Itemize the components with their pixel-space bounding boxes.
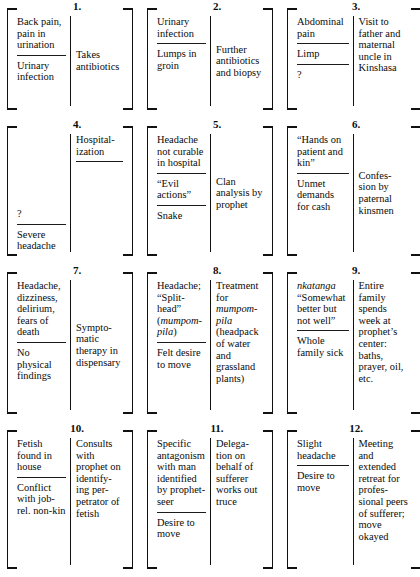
complaint-entry: Severe headache xyxy=(17,224,66,252)
complaint-column: Abdominal painLimp? xyxy=(297,16,353,106)
complaint-entry: Whole family sick xyxy=(297,330,349,358)
bracket-right-icon xyxy=(123,272,133,414)
action-entry xyxy=(76,161,123,172)
complaint-entry: Conflict with job-rel. non-kin xyxy=(17,477,66,517)
bracket-cell-2: 2.Urinary infectionLumps in groinFurther… xyxy=(140,0,280,118)
action-column: Further antibiotics and biopsy xyxy=(210,16,263,106)
bracket-left-icon xyxy=(7,430,17,569)
complaint-entry: Lumps in groin xyxy=(157,43,206,71)
complaint-entry: Snake xyxy=(157,205,206,222)
bracket-left-icon xyxy=(287,430,297,569)
cell-body: Headache not curable in hospital“Evil ac… xyxy=(157,134,263,252)
complaint-column: Fetish found in houseConflict with job-r… xyxy=(17,438,70,565)
complaint-entry: Slight headache xyxy=(297,438,349,461)
cell-body: Back pain, pain in urinationUrinary infe… xyxy=(17,16,123,106)
action-column: Entire family spends week at prophet’s c… xyxy=(353,280,409,410)
bracket-cell-7: 7.Headache, dizziness, delirium, fears o… xyxy=(0,264,140,422)
action-column: Treatment for mumpom-pila (headpack of w… xyxy=(210,280,263,410)
cell-number: 4. xyxy=(0,119,140,130)
complaint-entry: Headache; “Split-head” (mumpom-pila) xyxy=(157,280,206,338)
action-entry: Sympto-matic therapy in dispensary xyxy=(76,322,123,368)
action-entry: Entire family spends week at prophet’s c… xyxy=(359,280,409,384)
cell-body: Urinary infectionLumps in groinFurther a… xyxy=(157,16,263,106)
cell-number: 8. xyxy=(140,265,280,276)
complaint-column: Specific antagonism with man identified … xyxy=(157,438,210,565)
action-column: Consults with prophet on identify-ing pe… xyxy=(70,438,123,565)
complaint-entry: Specific antagonism with man identified … xyxy=(157,438,206,508)
bracket-row-1: 1.Back pain, pain in urinationUrinary in… xyxy=(0,0,416,118)
complaint-entry: No physical findings xyxy=(17,342,66,382)
complaint-entry: Desire to move xyxy=(157,512,206,540)
action-entry: Meeting and extended retreat for profes-… xyxy=(359,438,409,542)
bracket-left-icon xyxy=(7,126,17,256)
complaint-entry: ? xyxy=(17,208,66,220)
complaint-entry: Urinary infection xyxy=(157,16,206,39)
cell-body: Headache; “Split-head” (mumpom-pila)Felt… xyxy=(157,280,263,410)
bracket-cell-6: 6.“Hands on patient and kin”Unmet demand… xyxy=(280,118,416,264)
bracket-cell-12: 12.Slight headacheDesire to moveMeeting … xyxy=(280,422,416,577)
action-column: Confes-sion by paternal kinsmen xyxy=(353,134,409,252)
cell-number: 6. xyxy=(280,119,416,130)
bracket-right-icon xyxy=(123,126,133,256)
bracket-right-icon xyxy=(410,126,420,256)
complaint-entry: ? xyxy=(297,64,349,81)
complaint-entry: Urinary infection xyxy=(17,55,66,83)
cell-body: “Hands on patient and kin”Unmet demands … xyxy=(297,134,408,252)
complaint-column: Slight headacheDesire to move xyxy=(297,438,353,565)
bracket-left-icon xyxy=(147,272,157,414)
cell-number: 12. xyxy=(280,423,416,434)
action-column: Delega-tion on behalf of sufferer works … xyxy=(210,438,263,565)
action-entry: Hospital-ization xyxy=(76,134,123,157)
complaint-column: ?Severe headache xyxy=(17,134,70,252)
bracket-right-icon xyxy=(410,8,420,110)
bracket-cell-9: 9.nkatanga “Somewhat better but not well… xyxy=(280,264,416,422)
action-entry: Further antibiotics and biopsy xyxy=(216,44,263,79)
italic-term: mumpom-pila xyxy=(216,303,258,326)
cell-number: 1. xyxy=(0,1,140,12)
bracket-left-icon xyxy=(147,8,157,110)
action-entry: Confes-sion by paternal kinsmen xyxy=(359,170,409,216)
bracket-left-icon xyxy=(147,126,157,256)
complaint-entry: Limp xyxy=(297,43,349,60)
action-entry: Consults with prophet on identify-ing pe… xyxy=(76,438,123,519)
bracket-right-icon xyxy=(263,126,273,256)
complaint-entry: “Hands on patient and kin” xyxy=(297,134,349,169)
bracket-cell-11: 11.Specific antagonism with man identifi… xyxy=(140,422,280,577)
cell-body: Fetish found in houseConflict with job-r… xyxy=(17,438,123,565)
complaint-entry: nkatanga “Somewhat better but not well” xyxy=(297,280,349,326)
cell-number: 11. xyxy=(140,423,280,434)
bracket-right-icon xyxy=(263,430,273,569)
action-column: Takes antibiotics xyxy=(70,16,123,106)
action-entry: Delega-tion on behalf of sufferer works … xyxy=(216,438,263,508)
complaint-entry: Back pain, pain in urination xyxy=(17,16,66,51)
action-column: Hospital-ization xyxy=(70,134,123,252)
bracket-cell-10: 10.Fetish found in houseConflict with jo… xyxy=(0,422,140,577)
cell-body: Slight headacheDesire to moveMeeting and… xyxy=(297,438,408,565)
bracket-row-4: 10.Fetish found in houseConflict with jo… xyxy=(0,422,416,577)
cell-body: Headache, dizziness, delirium, fears of … xyxy=(17,280,123,410)
action-entry: Takes antibiotics xyxy=(76,49,123,72)
cell-body: ?Severe headacheHospital-ization xyxy=(17,134,123,252)
action-entry: Visit to father and maternal uncle in Ki… xyxy=(359,16,409,74)
complaint-entry: Felt desire to move xyxy=(157,342,206,370)
bracket-right-icon xyxy=(123,8,133,110)
complaint-entry: Headache, dizziness, delirium, fears of … xyxy=(17,280,66,338)
cell-number: 3. xyxy=(280,1,416,12)
complaint-entry: Headache not curable in hospital xyxy=(157,134,206,169)
italic-term: mumpom-pila xyxy=(157,315,202,338)
cell-body: Specific antagonism with man identified … xyxy=(157,438,263,565)
italic-term: nkatanga xyxy=(297,280,336,291)
complaint-entry: Desire to move xyxy=(297,465,349,493)
complaint-column: Urinary infectionLumps in groin xyxy=(157,16,210,106)
cell-body: Abdominal painLimp?Visit to father and m… xyxy=(297,16,408,106)
bracket-right-icon xyxy=(263,272,273,414)
complaint-entry: Unmet demands for cash xyxy=(297,173,349,213)
complaint-column: nkatanga “Somewhat better but not well”W… xyxy=(297,280,353,410)
bracket-right-icon xyxy=(410,272,420,414)
bracket-left-icon xyxy=(7,8,17,110)
cell-body: nkatanga “Somewhat better but not well”W… xyxy=(297,280,408,410)
complaint-column: Headache, dizziness, delirium, fears of … xyxy=(17,280,70,410)
cell-number: 7. xyxy=(0,265,140,276)
